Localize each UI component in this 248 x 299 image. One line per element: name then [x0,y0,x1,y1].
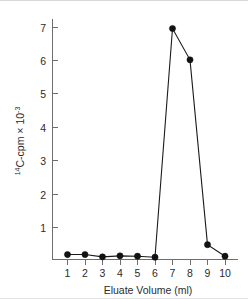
y-tick-label-6: 6 [40,55,46,67]
x-tick-label-10: 10 [219,267,231,279]
y-tick-label-7: 7 [40,22,46,34]
x-axis-ticks [68,260,226,266]
data-point [64,251,70,257]
data-point [117,253,123,259]
data-point [204,242,210,248]
svg-text:14C-cpm × 10-3: 14C-cpm × 10-3 [14,107,26,176]
y-tick-label-1: 1 [40,222,46,234]
y-axis-title-isotope: 14 [14,167,21,175]
y-tick-label-2: 2 [40,189,46,201]
y-axis-title-element: C-cpm [14,136,26,167]
data-point [152,254,158,260]
y-tick-label-3: 3 [40,155,46,167]
x-tick-label-5: 5 [135,267,141,279]
y-axis-title: 14C-cpm × 10-3 [14,107,26,176]
chart-figure: 7 6 5 4 3 2 1 1 2 3 4 5 6 7 8 9 10 [0,0,248,299]
x-tick-label-7: 7 [170,267,176,279]
x-tick-label-8: 8 [187,267,193,279]
series-markers [64,25,228,260]
data-point [169,25,175,31]
data-point [82,251,88,257]
data-point [99,254,105,260]
y-axis-ticks [53,28,59,228]
y-axis-title-exponent: -3 [14,107,21,113]
y-axis-title-base: 10 [14,113,26,125]
series-line [68,29,226,258]
x-tick-label-2: 2 [82,267,88,279]
data-point [222,253,228,259]
elution-profile-chart: 7 6 5 4 3 2 1 1 2 3 4 5 6 7 8 9 10 [0,1,248,299]
x-axis-title: Eluate Volume (ml) [104,284,193,296]
data-point [134,253,140,259]
x-tick-label-4: 4 [117,267,123,279]
y-tick-label-5: 5 [40,88,46,100]
x-tick-label-1: 1 [65,267,71,279]
x-tick-label-3: 3 [100,267,106,279]
x-tick-label-6: 6 [152,267,158,279]
x-tick-label-9: 9 [205,267,211,279]
data-point [187,57,193,63]
y-tick-label-4: 4 [40,122,46,134]
